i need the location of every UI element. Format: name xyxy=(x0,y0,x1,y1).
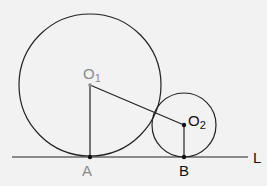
label-O2: O2 xyxy=(188,113,206,131)
label-O1-text: O xyxy=(83,65,95,82)
label-O1-sub: 1 xyxy=(95,72,101,84)
label-O1: O1 xyxy=(83,66,101,84)
label-O2-text: O xyxy=(188,112,200,129)
label-A: A xyxy=(82,163,92,178)
label-O2-sub: 2 xyxy=(200,119,206,131)
label-B: B xyxy=(179,163,189,178)
diagram-canvas xyxy=(0,0,267,186)
point-B xyxy=(182,155,186,159)
diagram: O1 O2 A B L xyxy=(0,0,267,186)
segment-O1-O2 xyxy=(90,85,184,125)
point-O2 xyxy=(182,123,186,127)
label-L: L xyxy=(253,150,261,165)
point-A xyxy=(88,155,92,159)
